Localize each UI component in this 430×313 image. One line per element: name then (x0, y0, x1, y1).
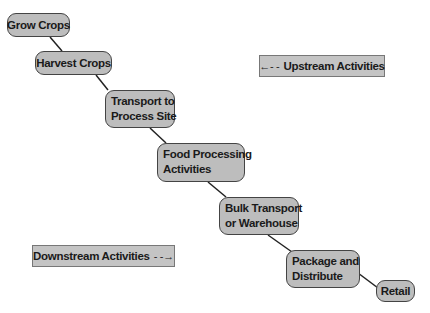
right-arrow-icon: - -→ (154, 250, 174, 262)
legend-downstream: Downstream Activities - -→ (32, 245, 175, 267)
node-label-line1: Transport to (111, 94, 169, 109)
node-grow-crops: Grow Crops (7, 13, 70, 37)
node-transport-to-process-site: Transport to Process Site (105, 90, 175, 128)
node-package-and-distribute: Package and Distribute (286, 250, 360, 288)
node-label-line2: Process Site (111, 109, 169, 124)
node-label-line1: Package and (292, 254, 354, 269)
node-label-line2: Activities (163, 162, 239, 177)
legend-upstream-label: Upstream Activities (283, 60, 384, 72)
node-label: Retail (381, 284, 411, 299)
left-arrow-icon: ←- - (259, 60, 279, 72)
node-label-line2: Distribute (292, 269, 354, 284)
node-bulk-transport-or-warehouse: Bulk Transport or Warehouse (219, 197, 299, 235)
node-harvest-crops: Harvest Crops (35, 51, 112, 75)
supply-chain-diagram: Grow Crops Harvest Crops Transport to Pr… (0, 0, 430, 313)
node-label: Harvest Crops (36, 56, 111, 71)
node-retail: Retail (376, 280, 415, 302)
node-label-line1: Bulk Transport (225, 201, 293, 216)
legend-upstream: ←- - Upstream Activities (259, 55, 385, 77)
node-food-processing-activities: Food Processing Activities (157, 143, 245, 182)
node-label: Grow Crops (7, 18, 70, 33)
node-label-line2: or Warehouse (225, 216, 293, 231)
node-label-line1: Food Processing (163, 147, 239, 162)
legend-downstream-label: Downstream Activities (33, 250, 150, 262)
